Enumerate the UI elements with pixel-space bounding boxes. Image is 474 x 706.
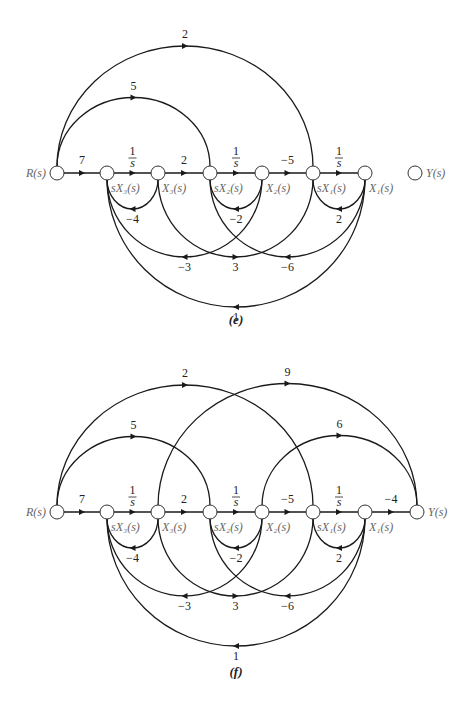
forward-branch-sX2-X2: 1s: [217, 483, 255, 515]
forward-branch-sX3-X3: 1s: [114, 144, 151, 176]
branch-gain: 7: [79, 492, 85, 506]
signal-flow-canvas: 71s21s−51s52−4−22−33−61R(s)sX₃(s)X₃(s)sX…: [0, 0, 474, 706]
node-label: R(s): [25, 166, 46, 180]
forward-branch-sX3-X3: 1s: [114, 483, 151, 515]
branch-gain: −6: [281, 260, 294, 274]
node-label: X₃(s): [161, 181, 186, 195]
svg-text:s: s: [130, 156, 135, 170]
branch-gain: −4: [126, 212, 139, 226]
branch-gain: −2: [230, 212, 243, 226]
svg-text:s: s: [130, 495, 135, 509]
arrowhead-icon: [182, 43, 188, 49]
branch-gain: −3: [178, 599, 191, 613]
branch-gain: 1s: [232, 144, 240, 170]
signal-flow-graph-f: 71s21s−51s−45296−4−22−33−61R(s)sX₃(s)X₃(…: [25, 365, 447, 680]
figure-caption: (f): [230, 664, 243, 679]
branch-gain: 2: [181, 492, 187, 506]
feedback-branch-X1-sX3: 1: [107, 179, 365, 324]
branch-gain: 2: [181, 153, 187, 167]
arrowhead-icon: [130, 509, 136, 515]
branch-gain: 2: [336, 551, 342, 565]
node-label: Y(s): [426, 166, 445, 180]
branch-gain: 1s: [335, 483, 343, 509]
node-circle-icon: [151, 505, 165, 519]
arrowhead-icon: [181, 170, 187, 176]
arrowhead-icon: [233, 509, 239, 515]
arrowhead-icon: [79, 509, 85, 515]
branch-gain: −6: [281, 599, 294, 613]
arrowhead-icon: [285, 509, 291, 515]
branch-gain: 1s: [129, 483, 137, 509]
node-label: sX₂(s): [214, 520, 243, 534]
arrowhead-icon: [79, 170, 85, 176]
node-R: R(s): [25, 505, 64, 519]
node-Y: Y(s): [410, 505, 447, 519]
branch-gain: 3: [233, 599, 239, 613]
arrowhead-icon: [337, 433, 343, 439]
branch-gain: 6: [337, 417, 343, 431]
forward-branch-X3-sX2: 2: [165, 153, 203, 176]
node-circle-icon: [410, 505, 424, 519]
node-circle-icon: [306, 166, 320, 180]
node-label: X₁(s): [368, 181, 393, 195]
arrowhead-icon: [336, 170, 342, 176]
node-label: X₂(s): [265, 181, 290, 195]
node-label: sX₂(s): [214, 181, 243, 195]
feedback-branch-X1-sX3: 1: [107, 518, 365, 663]
branch-gain: 5: [131, 79, 137, 93]
branch-gain: 2: [182, 366, 188, 380]
node-circle-icon: [50, 505, 64, 519]
svg-text:s: s: [234, 156, 239, 170]
feedforward-branch-R-sX1: 2: [57, 366, 313, 506]
arrowhead-icon: [388, 509, 394, 515]
forward-branch-X2-sX1: −5: [269, 153, 306, 176]
node-label: X₁(s): [368, 520, 393, 534]
node-label: R(s): [25, 505, 46, 519]
forward-branch-X1-Y: −4: [372, 492, 410, 515]
arrowhead-icon: [182, 382, 188, 388]
node-Y: Y(s): [408, 166, 445, 180]
arrowhead-icon: [285, 381, 291, 387]
branch-gain: −4: [126, 551, 139, 565]
node-circle-icon: [100, 166, 114, 180]
forward-branch-sX2-X2: 1s: [217, 144, 255, 176]
node-label: sX₁(s): [317, 520, 346, 534]
forward-branch-X2-sX1: −5: [269, 492, 306, 515]
node-circle-icon: [203, 166, 217, 180]
node-circle-icon: [151, 166, 165, 180]
signal-flow-graph-e: 71s21s−51s52−4−22−33−61R(s)sX₃(s)X₃(s)sX…: [25, 27, 445, 327]
node-label: X₂(s): [265, 520, 290, 534]
node-label: Y(s): [428, 505, 447, 519]
branch-gain: −5: [281, 153, 294, 167]
branch-gain: 1: [233, 649, 239, 663]
branch-gain: −3: [178, 260, 191, 274]
node-circle-icon: [358, 166, 372, 180]
branch-gain: 2: [182, 27, 188, 41]
branch-gain: 3: [233, 260, 239, 274]
branch-gain: 2: [336, 212, 342, 226]
node-label: sX₁(s): [317, 181, 346, 195]
branch-gain: 9: [285, 365, 291, 379]
arrowhead-icon: [285, 170, 291, 176]
node-sX3: sX₃(s): [100, 505, 140, 534]
node-sX2: sX₂(s): [203, 505, 243, 534]
forward-branch-sX1-X1: 1s: [320, 483, 358, 515]
svg-text:s: s: [337, 495, 342, 509]
branch-gain: −4: [385, 492, 398, 506]
arrowhead-icon: [233, 170, 239, 176]
node-circle-icon: [255, 505, 269, 519]
svg-text:s: s: [234, 495, 239, 509]
forward-branch-R-sX3: 7: [64, 492, 100, 515]
forward-branch-X3-sX2: 2: [165, 492, 203, 515]
node-circle-icon: [408, 166, 422, 180]
node-circle-icon: [203, 505, 217, 519]
branch-gain: 1s: [335, 144, 343, 170]
arrowhead-icon: [131, 95, 137, 101]
forward-branch-sX1-X1: 1s: [320, 144, 358, 176]
arrowhead-icon: [181, 509, 187, 515]
branch-gain: 1s: [129, 144, 137, 170]
node-circle-icon: [100, 505, 114, 519]
node-circle-icon: [255, 166, 269, 180]
arrowhead-icon: [130, 170, 136, 176]
node-label: sX₃(s): [111, 181, 140, 195]
